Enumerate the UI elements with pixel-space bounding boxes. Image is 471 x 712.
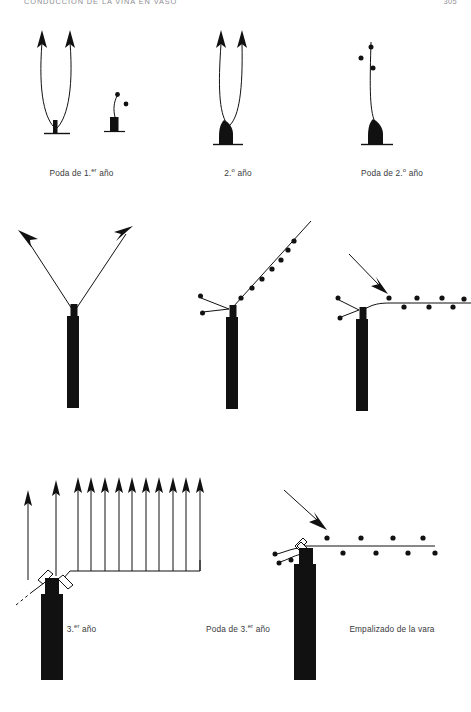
bud (371, 66, 376, 71)
figure-3er-ano: 3.er año (0, 212, 163, 422)
bud (439, 295, 444, 300)
bud (390, 535, 395, 540)
figure-poda-4o-ano-drawing (245, 468, 471, 690)
bud (324, 535, 329, 540)
bud (432, 550, 437, 555)
bud (340, 550, 345, 555)
trunk-head (360, 307, 367, 321)
action-arrow-shaft (284, 490, 317, 520)
bud (420, 535, 425, 540)
trunk-body (226, 317, 238, 409)
bud (277, 561, 282, 566)
spur-branch-a (201, 298, 229, 309)
bud (358, 535, 363, 540)
trunk-body (356, 319, 368, 411)
cane-long (233, 221, 311, 307)
trunk-body (294, 564, 316, 680)
bud (198, 294, 203, 299)
arrowhead-left (18, 230, 38, 247)
figure-poda-2o-ano: Poda de 2.o año (313, 24, 471, 162)
trunk-body (67, 316, 79, 408)
bud (291, 238, 296, 243)
running-head: CONDUCCIÓN DE LA VIÑA EN VASO 305 (0, 0, 471, 9)
bud (401, 304, 406, 309)
dashed-removal-line (16, 592, 32, 605)
trunk-head (230, 305, 237, 319)
detail-spur-block (110, 117, 119, 131)
figure-2o-ano: 2.o año (163, 24, 313, 162)
bud (405, 550, 410, 555)
figure-poda-1er-ano-drawing (0, 24, 163, 162)
action-arrow-shaft (349, 254, 379, 285)
figure-caption: Poda de 1.er año (0, 168, 163, 178)
figure-2o-ano-drawing (163, 24, 313, 162)
bud (461, 296, 466, 301)
figure-4o-ano: 4.o año (0, 468, 245, 690)
shoot-left-stem (41, 42, 56, 129)
removal-line (32, 583, 44, 592)
figure-caption: Poda de 2.o año (313, 168, 471, 178)
page-canvas: CONDUCCIÓN DE LA VIÑA EN VASO 305 (0, 0, 471, 712)
bud (200, 311, 205, 316)
bud (115, 92, 120, 97)
shoot-right-stem (230, 44, 242, 125)
bud (285, 247, 290, 252)
single-cane (370, 42, 375, 122)
figure-poda-1er-ano: Poda de 1.er año (0, 24, 163, 162)
bud (259, 276, 264, 281)
trunk-stub (368, 119, 383, 144)
shoot-left-stem (26, 238, 72, 309)
figure-empalizado-de-la-vara: Empalizado de la vara (313, 212, 471, 422)
spur-branch-b (341, 310, 359, 317)
figure-empalizado-drawing (313, 212, 471, 422)
shoot-right-stem (76, 234, 126, 309)
bud (359, 56, 364, 61)
bud (450, 304, 455, 309)
bud (414, 295, 419, 300)
bud (124, 102, 129, 107)
bud (336, 296, 341, 301)
bud (269, 266, 274, 271)
figure-poda-3er-ano: Poda de 3.er año (163, 212, 313, 422)
trunk-head (71, 304, 78, 318)
figure-3er-ano-drawing (0, 212, 163, 422)
arrowhead-right (114, 226, 133, 241)
bud (426, 304, 431, 309)
figure-caption: 2.o año (163, 168, 313, 178)
spur-branch-a (339, 300, 359, 310)
running-head-title: CONDUCCIÓN DE LA VIÑA EN VASO (24, 0, 177, 6)
bud (369, 45, 374, 50)
detail-spur-cane (114, 96, 117, 117)
bud (373, 550, 378, 555)
bud (273, 552, 278, 557)
trunk-body (41, 594, 63, 680)
bud (338, 316, 343, 321)
figure-4o-ano-drawing (0, 468, 245, 690)
trunk-stub (53, 120, 58, 133)
bud (386, 295, 391, 300)
detail-pruned-spur (104, 92, 128, 131)
figure-poda-4o-ano: Poda de 4.o año (245, 468, 471, 690)
page-folio: 305 (443, 0, 457, 6)
figure-poda-3er-ano-drawing (163, 212, 313, 422)
pruning-cut-mark (58, 575, 73, 589)
bud (249, 285, 254, 290)
spur-branch-b (203, 309, 229, 312)
bud (278, 257, 283, 262)
shoot-left-stem (219, 44, 227, 124)
figure-poda-2o-ano-drawing (313, 24, 471, 162)
cane-shoot-arrowheads (74, 477, 204, 493)
bud (238, 295, 243, 300)
shoot-right-stem (56, 42, 71, 129)
bud (289, 558, 294, 563)
cane-shoots (78, 487, 200, 571)
